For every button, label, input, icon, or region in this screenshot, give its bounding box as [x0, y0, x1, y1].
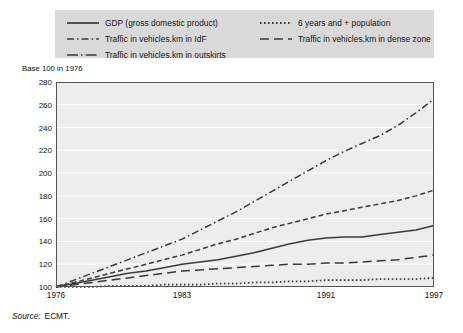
source-value: ECMT.	[45, 311, 70, 321]
plot-wrapper: 100120140160180200220240260280 197619831…	[0, 0, 463, 333]
series-line	[56, 190, 434, 287]
series-line	[56, 226, 434, 288]
source-note: Source:ECMT.	[12, 311, 69, 321]
source-prefix: Source:	[12, 311, 41, 321]
chart-lines	[0, 0, 463, 333]
plot-border	[57, 83, 434, 287]
chart-page: GDP (gross domestic product)Traffic in v…	[0, 0, 463, 333]
